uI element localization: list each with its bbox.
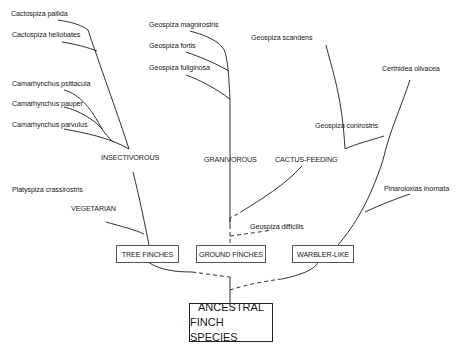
root-box-ancestral: ANCESTRAL FINCH SPECIES [189, 303, 273, 342]
branch-heliobates [62, 42, 97, 51]
species-label: Pinaroloxias inornata [384, 184, 449, 193]
branch-granivorous-trunk [190, 31, 230, 225]
group-box-ground-finches: GROUND FINCHES [196, 245, 266, 263]
group-box-tree-finches: TREE FINCHES [116, 245, 179, 263]
diet-label-insectivorous: INSECTIVOROUS [101, 153, 159, 162]
species-label: Camarhynchus parvulus [12, 120, 87, 129]
species-label: Camarhynchus psittacula [12, 79, 90, 88]
branch-lines [0, 0, 456, 346]
branch-scandens [326, 45, 345, 149]
branch-warbler-trunk [338, 80, 410, 245]
diet-label-cactus-feeding: CACTUS-FEEDING [275, 155, 338, 164]
species-label: Geospiza scandens [251, 33, 312, 42]
branch-vegetarian [106, 222, 144, 234]
finch-phylogeny-diagram: Cactospiza pallida Cactospiza heliobates… [0, 0, 456, 346]
branch-warbler-dashed [230, 279, 282, 290]
species-label: Cactospiza heliobates [12, 30, 80, 39]
branch-tree-dashed [192, 272, 230, 277]
species-label: Geospiza magnirostris [149, 20, 218, 29]
species-label: Camarhynchus pauper [12, 99, 83, 108]
diet-label-vegetarian: VEGETARIAN [71, 204, 116, 213]
branch-cactus-dashed [230, 210, 244, 218]
species-label: Geospiza conirostris [315, 121, 378, 130]
branch-cactus-to-ground [244, 166, 302, 210]
branch-tree-lower [148, 262, 192, 272]
species-label: Platyspiza crassirostris [12, 185, 83, 194]
branch-warbler-lower [282, 262, 318, 279]
branch-camarhynchus-join [102, 129, 113, 142]
branch-parvulus [64, 129, 129, 149]
species-label: Geospiza fuliginosa [149, 63, 210, 72]
branch-conirostris [345, 136, 384, 149]
species-label: Certhidea olivacea [382, 64, 440, 73]
branch-tree-trunk [133, 172, 149, 245]
species-label: Geospiza fortis [149, 41, 195, 50]
branch-fuliginosa [186, 75, 230, 99]
root-line-1: ANCESTRAL [198, 300, 264, 315]
species-label: Geospiza difficilis [250, 222, 304, 231]
species-label: Cactospiza pallida [11, 9, 68, 18]
diet-label-granivorous: GRANIVOROUS [204, 155, 257, 164]
root-line-2: FINCH SPECIES [190, 315, 272, 345]
group-box-warbler-like: WARBLER-LIKE [292, 245, 354, 263]
branch-pinaroloxias [365, 194, 410, 212]
